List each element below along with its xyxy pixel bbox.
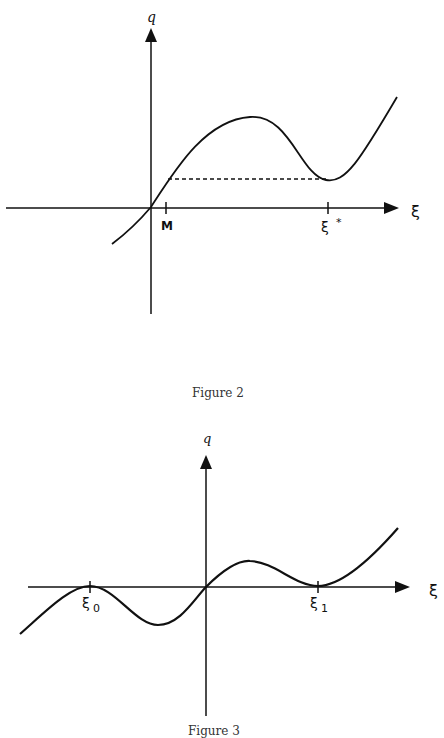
curve-q-of-xi-3: [20, 528, 398, 634]
tick-label-xi1-sub: 1: [321, 602, 328, 615]
x-axis-3-arrow-icon: [395, 581, 410, 593]
tick-label-xi1: ξ: [310, 595, 318, 611]
figure-3-caption: Figure 3: [188, 724, 240, 738]
x-axis-3-label: ξ: [429, 581, 438, 600]
tick-label-xi0: ξ: [82, 595, 90, 611]
y-axis-3-arrow-icon: [200, 455, 212, 469]
tick-label-xi0-sub: 0: [93, 602, 100, 615]
y-axis-3-label: q: [203, 431, 211, 446]
